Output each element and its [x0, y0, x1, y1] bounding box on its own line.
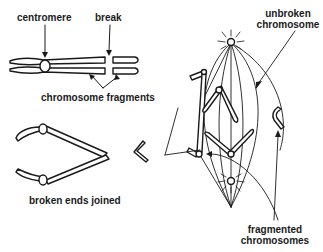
label-fragmented-chromosomes: fragmented chromosomes — [240, 224, 310, 246]
centrosome-top — [218, 30, 244, 49]
centrosome-bottom — [218, 174, 244, 193]
joined-chromosome — [16, 124, 148, 185]
label-unbroken-line1: unbroken — [253, 8, 323, 19]
fragmented-chromosome-long — [187, 70, 207, 158]
label-break: break — [95, 12, 122, 23]
label-unbroken-line2: chromosome — [253, 19, 323, 30]
label-fragmented-line2: chromosomes — [240, 235, 310, 246]
label-broken-ends-joined: broken ends joined — [29, 195, 121, 206]
label-centromere: centromere — [17, 12, 71, 23]
label-fragmented-line1: fragmented — [240, 224, 310, 235]
unbroken-chromosome-lower — [205, 130, 254, 157]
label-unbroken-chromosome: unbroken chromosome — [253, 8, 323, 30]
broken-chromosome — [10, 57, 138, 74]
label-chromosome-fragments: chromosome fragments — [41, 92, 155, 103]
centromere-knob — [40, 60, 50, 72]
chromosome-breakage-diagram: centromere break chromosome fragments br… — [0, 0, 323, 252]
diagram-drawing — [0, 0, 323, 252]
spindle-fibers — [197, 43, 283, 207]
